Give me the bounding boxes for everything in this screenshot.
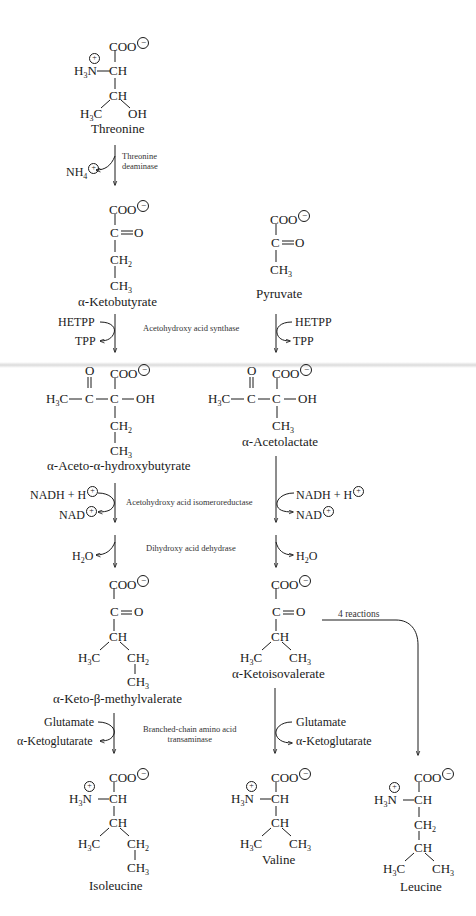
compound-name-threonine: Threonine <box>91 122 144 136</box>
ketoisovalerate-methyl-left: H3C <box>240 651 262 665</box>
cofactor-water-left: H2O <box>72 549 93 563</box>
enzyme-branched-chain-amino-acid-transaminase: Branched-chain amino acid transaminase <box>143 724 236 744</box>
positive-charge-icon: + <box>84 781 95 792</box>
cofactor-nadh-left: NADH + H+ <box>30 486 98 502</box>
pyruvate-carboxylate: COO− <box>270 210 310 227</box>
ketomethylvalerate-keto-oxygen: O <box>134 605 143 619</box>
acetolactate-methyl: H3C <box>208 392 230 406</box>
acetohydroxybutyrate-hydroxyl: OH <box>136 392 155 406</box>
negative-charge-icon: − <box>442 768 454 780</box>
ketomethylvalerate-carboxylate: COO− <box>109 575 149 592</box>
compound-name-leucine: Leucine <box>400 880 442 894</box>
acetohydroxybutyrate-keto-oxygen: O <box>85 364 94 378</box>
compound-name-ketobutyrate: α-Ketobutyrate <box>78 295 157 309</box>
cofactor-glutamate-right: Glutamate <box>296 715 346 729</box>
acetohydroxybutyrate-methyl: H3C <box>46 392 68 406</box>
acetohydroxybutyrate-c1: C <box>85 392 94 406</box>
negative-charge-icon: − <box>299 575 311 587</box>
valine-amine: +H3N <box>231 792 254 806</box>
valine-carboxylate: COO− <box>271 768 311 785</box>
isoleucine-carboxylate: COO− <box>109 768 149 785</box>
acetohydroxybutyrate-ch2: CH2 <box>110 419 132 433</box>
acetolactate-c1: C <box>247 392 256 406</box>
ketomethylvalerate-ch3: CH3 <box>127 675 149 689</box>
acetohydroxybutyrate-carboxylate: COO− <box>110 364 150 381</box>
ketomethylvalerate-keto-carbon: C <box>110 605 119 619</box>
pyruvate-ch3: CH3 <box>270 263 292 277</box>
positive-charge-icon: + <box>89 53 100 64</box>
ketoisovalerate-keto-carbon: C <box>272 605 281 619</box>
ketobutyrate-ch2: CH2 <box>110 253 132 267</box>
ketobutyrate-carboxylate: COO− <box>109 200 149 217</box>
cofactor-nadh-right: NADH + H+ <box>296 486 364 502</box>
compound-name-pyruvate: Pyruvate <box>256 287 302 301</box>
ketoisovalerate-ch: CH <box>271 630 289 644</box>
positive-charge-icon: + <box>323 506 334 517</box>
cofactor-ketoglutarate-left: α-Ketoglutarate <box>17 734 93 748</box>
valine-alpha-carbon: CH <box>271 792 289 806</box>
compound-name-isoleucine: Isoleucine <box>89 879 142 893</box>
leucine-methyl-right: CH3 <box>432 862 454 876</box>
threonine-amine: +H3N <box>74 64 97 78</box>
ketomethylvalerate-methyl: H3C <box>78 651 100 665</box>
negative-charge-icon: − <box>137 37 149 49</box>
cofactor-hetpp-right: HETPP <box>295 315 332 329</box>
positive-charge-icon: + <box>87 486 98 497</box>
positive-charge-icon: + <box>86 506 97 517</box>
ketomethylvalerate-ch2: CH2 <box>127 651 149 665</box>
cofactor-tpp-right: TPP <box>293 334 314 348</box>
isoleucine-amine: +H3N <box>69 792 92 806</box>
compound-name-ketomethylvalerate: α-Keto-β-methylvalerate <box>53 692 182 706</box>
negative-charge-icon: − <box>298 210 310 222</box>
positive-charge-icon: + <box>88 163 99 174</box>
negative-charge-icon: − <box>137 200 149 212</box>
negative-charge-icon: − <box>138 364 150 376</box>
threonine-beta-carbon: CH <box>109 89 127 103</box>
threonine-alpha-carbon: CH <box>109 64 127 78</box>
leucine-ch2: CH2 <box>414 818 436 832</box>
ketomethylvalerate-ch: CH <box>109 630 127 644</box>
valine-methyl-right: CH3 <box>289 837 311 851</box>
ketoisovalerate-methyl-right: CH3 <box>289 651 311 665</box>
ketobutyrate-keto-carbon: C <box>110 226 119 240</box>
leucine-methyl-left: H3C <box>383 862 405 876</box>
cofactor-glutamate-left: Glutamate <box>44 715 94 729</box>
ketoisovalerate-carboxylate: COO− <box>271 575 311 592</box>
cofactor-hetpp-left: HETPP <box>58 315 95 329</box>
enzyme-threonine-deaminase: Threonine deaminase <box>122 151 158 171</box>
negative-charge-icon: − <box>299 768 311 780</box>
ketoisovalerate-keto-oxygen: O <box>296 605 305 619</box>
leucine-alpha-carbon: CH <box>414 793 432 807</box>
cofactor-nad-left: NAD+ <box>59 506 97 522</box>
acetohydroxybutyrate-ch3: CH3 <box>110 444 132 458</box>
cofactor-tpp-left: TPP <box>75 334 96 348</box>
scan-artifact-band <box>0 362 476 368</box>
isoleucine-ch: CH <box>109 816 127 830</box>
pyruvate-keto-carbon: C <box>271 236 280 250</box>
positive-charge-icon: + <box>353 486 364 497</box>
cofactor-nad-right: NAD+ <box>296 506 334 522</box>
leucine-ch: CH <box>414 841 432 855</box>
cofactor-water-right: H2O <box>296 549 317 563</box>
negative-charge-icon: − <box>137 575 149 587</box>
ketobutyrate-keto-oxygen: O <box>134 226 143 240</box>
acetolactate-carboxylate: COO− <box>272 364 312 381</box>
enzyme-acetohydroxy-acid-isomeroreductase: Acetohydroxy acid isomeroreductase <box>126 497 253 507</box>
negative-charge-icon: − <box>137 768 149 780</box>
threonine-methyl: H3C <box>80 107 102 121</box>
compound-name-ketoisovalerate: α-Ketoisovalerate <box>232 667 325 681</box>
pyruvate-keto-oxygen: O <box>295 236 304 250</box>
acetolactate-ch3: CH3 <box>272 419 294 433</box>
label-four-reactions: 4 reactions <box>338 609 379 619</box>
compound-name-valine: Valine <box>262 853 295 867</box>
leucine-amine: +H3N <box>374 793 397 807</box>
isoleucine-alpha-carbon: CH <box>109 792 127 806</box>
acetohydroxybutyrate-c2: C <box>110 392 119 406</box>
threonine-hydroxyl: OH <box>128 107 147 121</box>
positive-charge-icon: + <box>389 782 400 793</box>
acetolactate-hydroxyl: OH <box>298 392 317 406</box>
valine-ch: CH <box>271 816 289 830</box>
compound-name-acetohydroxybutyrate: α-Aceto-α-hydroxybutyrate <box>47 459 191 473</box>
enzyme-dihydroxy-acid-dehydrase: Dihydroxy acid dehydrase <box>146 543 236 553</box>
cofactor-nh4: NH4+ <box>66 163 99 179</box>
